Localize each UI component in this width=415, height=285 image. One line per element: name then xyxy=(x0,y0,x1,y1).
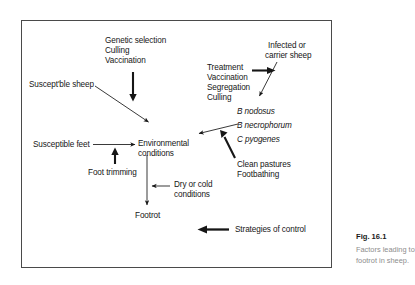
label-dry-cold-conditions: conditions xyxy=(174,190,210,200)
figure-page: Genetic selection Culling Vaccination Su… xyxy=(0,0,415,285)
label-c-pyogenes: C pyogenes xyxy=(237,135,280,145)
label-susceptible-sheep: Suscept'ble sheep xyxy=(29,80,94,90)
caption-line-2: footrot in sheep. xyxy=(356,256,409,266)
label-b-nodosus: B nodosus xyxy=(237,107,275,117)
label-treatment: Treatment xyxy=(207,63,243,73)
label-b-necrophorum: B necrophorum xyxy=(237,121,292,131)
label-vaccination-1: Vaccination xyxy=(105,56,146,66)
label-dry-or-cold: Dry or cold xyxy=(174,180,212,190)
label-strategies-of-control: Strategies of control xyxy=(235,225,306,235)
caption-figure-number: Fig. 16.1 xyxy=(356,232,386,242)
label-carrier-sheep: carrier sheep xyxy=(265,51,311,61)
label-vaccination-2: Vaccination xyxy=(207,73,248,83)
label-culling-1: Culling xyxy=(105,46,129,56)
label-environmental: Environmental xyxy=(138,139,189,149)
caption-line-1: Factors leading to xyxy=(356,245,415,255)
label-susceptible-feet: Susceptible feet xyxy=(33,140,90,150)
label-footrot: Footrot xyxy=(135,211,160,221)
label-clean-pastures: Clean pastures xyxy=(237,160,291,170)
label-foot-trimming: Foot trimming xyxy=(88,168,137,178)
label-infected-or: Infected or xyxy=(268,41,306,51)
label-genetic-selection: Genetic selection xyxy=(105,36,166,46)
label-footbathing: Footbathing xyxy=(237,170,279,180)
label-culling-2: Culling xyxy=(207,93,231,103)
label-environmental-conditions: conditions xyxy=(138,149,174,159)
label-segregation: Segregation xyxy=(207,83,250,93)
